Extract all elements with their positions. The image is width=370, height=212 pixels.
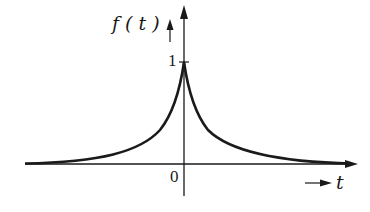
plot-canvas [0,0,370,212]
peak-value-label: 1 [168,51,177,71]
label-arrow-up-icon [167,19,174,30]
y-axis-arrow-icon [180,5,188,19]
t-label-arrow-icon [320,180,332,187]
x-axis-label: t [336,171,344,193]
exp-decay-curve [25,62,352,164]
figure: f ( t ) 1 0 t [0,0,370,212]
y-axis-label: f ( t ) [112,12,160,34]
origin-label: 0 [170,167,179,187]
